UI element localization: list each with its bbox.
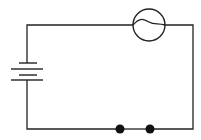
battery-icon: [11, 63, 43, 80]
wire-top-right: [150, 25, 193, 129]
wire-bottom-left: [27, 80, 120, 129]
circuit-diagram: [0, 0, 201, 140]
terminal-dot-right: [146, 125, 155, 134]
terminal-dot-left: [116, 125, 125, 134]
wire-left-top: [27, 25, 133, 63]
lamp-icon: [133, 9, 165, 41]
